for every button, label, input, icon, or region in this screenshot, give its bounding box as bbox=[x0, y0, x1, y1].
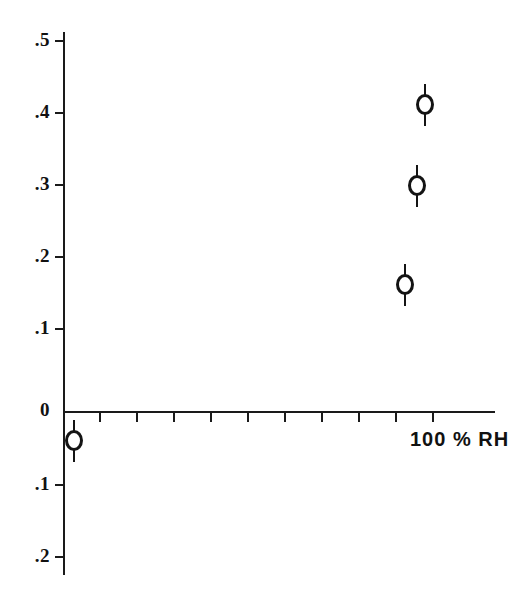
y-axis-tick-label: .3 bbox=[10, 173, 50, 195]
x-axis-tick bbox=[395, 412, 397, 422]
y-axis-tick bbox=[55, 328, 65, 330]
scatter-plot-figure: .5 .4 .3 .2 .1 0 .1 .2 100 % RH bbox=[0, 0, 522, 591]
x-axis-tick bbox=[321, 412, 323, 422]
y-axis-tick bbox=[55, 484, 65, 486]
data-marker bbox=[408, 175, 426, 196]
y-axis-tick-label: .5 bbox=[10, 29, 50, 51]
y-axis-tick-label: .1 bbox=[10, 473, 50, 495]
x-axis-tick bbox=[284, 412, 286, 422]
y-axis-tick-label: 0 bbox=[10, 399, 50, 421]
data-point bbox=[64, 420, 84, 462]
data-marker bbox=[416, 94, 434, 115]
x-axis-line bbox=[63, 411, 495, 413]
data-marker bbox=[65, 430, 83, 451]
y-axis-tick bbox=[55, 184, 65, 186]
y-axis-tick bbox=[55, 256, 65, 258]
x-axis-label: 100 % RH bbox=[410, 428, 509, 451]
x-axis-tick bbox=[99, 412, 101, 422]
y-axis-tick-label: .1 bbox=[10, 317, 50, 339]
y-axis-tick bbox=[55, 40, 65, 42]
x-axis-tick bbox=[173, 412, 175, 422]
y-axis-tick-label: .2 bbox=[10, 545, 50, 567]
y-axis-tick bbox=[55, 556, 65, 558]
data-point bbox=[407, 165, 427, 207]
y-axis-tick-label: .4 bbox=[10, 101, 50, 123]
x-axis-tick bbox=[358, 412, 360, 422]
x-axis-tick bbox=[432, 412, 434, 422]
y-axis-tick bbox=[55, 112, 65, 114]
x-axis-tick bbox=[210, 412, 212, 422]
y-axis-tick-label: .2 bbox=[10, 245, 50, 267]
data-point bbox=[395, 264, 415, 306]
x-axis-tick bbox=[247, 412, 249, 422]
x-axis-tick bbox=[136, 412, 138, 422]
data-point bbox=[415, 84, 435, 126]
data-marker bbox=[396, 274, 414, 295]
